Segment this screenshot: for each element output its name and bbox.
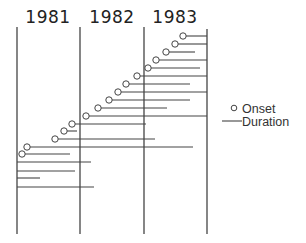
onset-marker-icon <box>95 105 101 111</box>
onset-legend-icon <box>231 105 237 111</box>
onset-marker-icon <box>19 151 25 157</box>
year-boundaries <box>17 27 207 234</box>
timeline-row <box>95 105 167 111</box>
timeline-row <box>19 151 70 157</box>
timeline-row <box>52 136 155 142</box>
timeline-row <box>145 65 200 71</box>
onset-marker-icon <box>106 97 112 103</box>
year-label-1982: 1982 <box>89 7 134 27</box>
timeline-row <box>24 144 193 150</box>
onset-marker-icon <box>134 73 140 79</box>
legend: Onset Duration <box>222 102 289 129</box>
timeline-chart: 1981 1982 1983 Onset Duration <box>0 0 306 243</box>
timeline-row <box>83 113 207 119</box>
onset-marker-icon <box>145 65 151 71</box>
timeline-row <box>153 57 207 63</box>
timeline-row <box>180 33 207 39</box>
timeline-row <box>115 89 207 95</box>
onset-marker-icon <box>83 113 89 119</box>
onset-marker-icon <box>123 81 129 87</box>
onset-marker-icon <box>24 144 30 150</box>
onset-marker-icon <box>172 41 178 47</box>
onset-marker-icon <box>163 49 169 55</box>
timeline-row <box>163 49 195 55</box>
onset-marker-icon <box>153 57 159 63</box>
year-label-1981: 1981 <box>25 7 70 27</box>
timeline-row <box>61 128 77 134</box>
onset-marker-icon <box>52 136 58 142</box>
legend-duration-label: Duration <box>242 115 289 129</box>
onset-marker-icon <box>69 121 75 127</box>
timeline-row <box>134 73 207 79</box>
timeline-row <box>172 41 207 47</box>
year-label-1983: 1983 <box>152 7 197 27</box>
onset-marker-icon <box>115 89 121 95</box>
timeline-rows <box>17 33 207 187</box>
onset-marker-icon <box>61 128 67 134</box>
legend-onset-label: Onset <box>242 102 276 116</box>
timeline-row <box>123 81 190 87</box>
onset-marker-icon <box>180 33 186 39</box>
timeline-row <box>106 97 190 103</box>
